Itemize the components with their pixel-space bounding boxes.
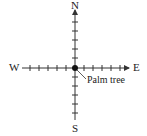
palm-tree-label: Palm tree [87, 75, 125, 85]
west-label: W [9, 62, 19, 73]
compass-axes [0, 0, 147, 136]
east-label: E [133, 62, 140, 73]
south-label: S [72, 123, 78, 134]
palm-tree-point [72, 65, 78, 71]
north-label: N [71, 0, 79, 11]
